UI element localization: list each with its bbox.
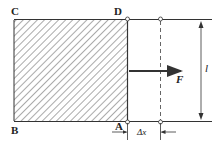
label-force: F: [176, 74, 183, 85]
label-d: D: [114, 6, 122, 17]
displaced-contact-top: [159, 17, 163, 21]
hatched-region: [14, 20, 127, 121]
label-displacement: Δx: [137, 128, 146, 137]
rod-contact-top: [126, 17, 130, 21]
label-a: A: [115, 121, 123, 132]
length-arrow-bottom-icon: [199, 113, 204, 120]
length-arrow-top-icon: [199, 21, 204, 28]
diagram-canvas: [0, 0, 222, 147]
label-length: l: [205, 63, 208, 74]
label-c: C: [11, 6, 19, 17]
label-b: B: [11, 125, 18, 136]
